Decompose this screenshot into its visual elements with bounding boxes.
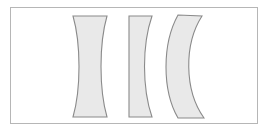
plano-concave-lens-shape <box>129 16 152 117</box>
convex-concave-meniscus-lens-shape <box>166 15 204 118</box>
lens-shapes-canvas <box>0 0 268 131</box>
lens-diagram-figure: Concave lens cross-section shapes Three … <box>0 0 268 131</box>
biconcave-lens-shape <box>73 16 107 117</box>
